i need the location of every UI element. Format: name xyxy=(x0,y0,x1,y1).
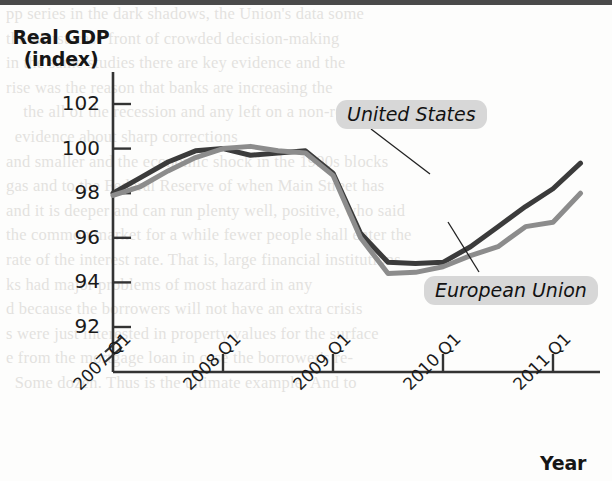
y-axis-title-line1: Real GDP xyxy=(8,26,114,48)
x-axis-title: Year xyxy=(540,452,586,474)
leader-line-united-states xyxy=(371,129,430,174)
y-tick-label: 100 xyxy=(58,136,100,160)
y-axis-title: Real GDP (index) xyxy=(8,26,114,70)
x-tick-marks xyxy=(223,354,553,372)
y-tick-label: 96 xyxy=(58,225,100,249)
chart-page: pp series in the dark shadows, the Union… xyxy=(0,0,612,481)
y-tick-marks xyxy=(113,104,131,327)
series-label-united-states: United States xyxy=(336,100,487,129)
data-series xyxy=(113,146,581,273)
y-tick-label: 92 xyxy=(58,314,100,338)
y-tick-label: 94 xyxy=(58,269,100,293)
y-tick-label: 98 xyxy=(58,180,100,204)
series-label-european-union: European Union xyxy=(424,276,598,305)
y-tick-label: 102 xyxy=(58,91,100,115)
y-axis-title-line2: (index) xyxy=(8,48,114,70)
series-line-european-union xyxy=(113,146,581,273)
